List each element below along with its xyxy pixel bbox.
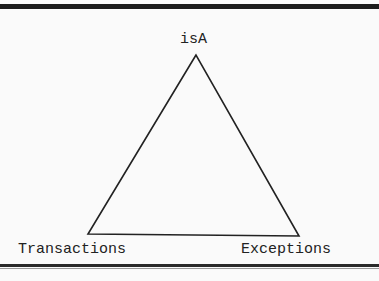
bottom-rule-shadow <box>0 268 379 269</box>
bottom-rule <box>0 264 379 267</box>
node-label-top: isA <box>180 32 207 48</box>
diagram-frame: isA Transactions Exceptions <box>0 0 379 281</box>
node-label-bottom-right: Exceptions <box>241 242 331 258</box>
node-label-bottom-left: Transactions <box>18 242 126 258</box>
